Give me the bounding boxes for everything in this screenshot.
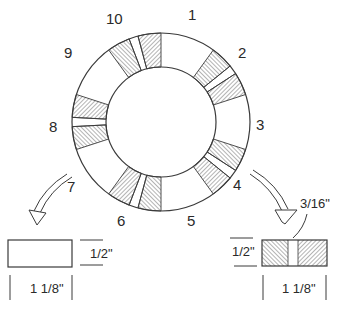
right-width-label: 1 1/8" (282, 281, 316, 296)
segment-label-2: 2 (238, 44, 246, 61)
inner-ring (106, 67, 216, 177)
right-height-label: 1/2" (232, 244, 255, 259)
segment-label-5: 5 (187, 212, 195, 229)
segment-label-10: 10 (106, 10, 123, 27)
left-width-label: 1 1/8" (30, 281, 64, 296)
left-height-label: 1/2" (90, 246, 113, 261)
segment-label-8: 8 (49, 118, 57, 135)
curved-arrow-left (29, 174, 72, 225)
segment-label-3: 3 (256, 116, 264, 133)
segment-label-4: 4 (233, 176, 241, 193)
curved-arrow-right (250, 170, 297, 224)
segment-label-7: 7 (67, 178, 75, 195)
segment-label-9: 9 (64, 44, 72, 61)
segment-label-6: 6 (117, 212, 125, 229)
ring-diagram: 1 2 3 4 5 6 7 8 9 10 1/2" 1 1/8" (0, 0, 343, 309)
gap-width-label: 3/16" (300, 196, 330, 211)
segment-label-1: 1 (188, 6, 196, 23)
